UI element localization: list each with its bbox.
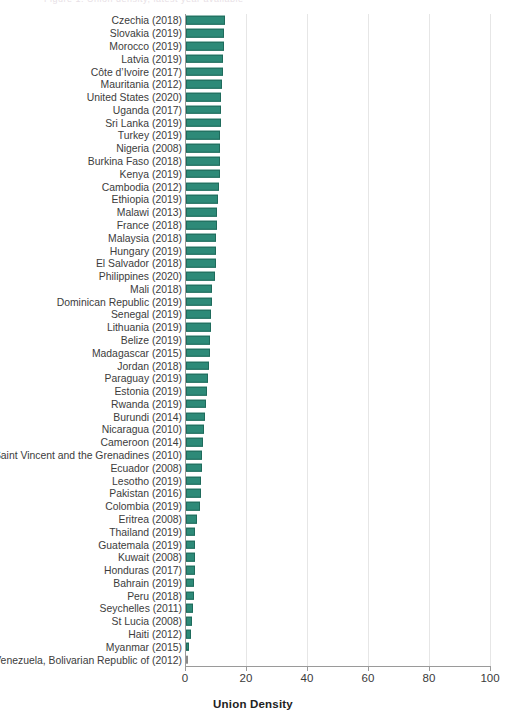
bar[interactable] [186, 182, 219, 191]
bar-row[interactable]: Ecuador (2008) [0, 461, 506, 474]
bar-row[interactable]: Peru (2018) [0, 589, 506, 602]
bar[interactable] [186, 157, 220, 166]
bar[interactable] [186, 118, 221, 127]
bar-row[interactable]: Thailand (2019) [0, 525, 506, 538]
bar[interactable] [186, 412, 205, 421]
bar[interactable] [186, 170, 220, 179]
bar[interactable] [186, 221, 217, 230]
bar[interactable] [186, 400, 206, 409]
bar[interactable] [186, 540, 195, 549]
bar[interactable] [186, 131, 220, 140]
bar[interactable] [186, 387, 207, 396]
bar-row[interactable]: Venezuela, Bolivarian Republic of (2012) [0, 653, 506, 666]
bar-row[interactable]: St Lucia (2008) [0, 615, 506, 628]
bar[interactable] [186, 655, 188, 664]
bar-row[interactable]: Dominican Republic (2019) [0, 295, 506, 308]
bar-row[interactable]: Uganda (2017) [0, 103, 506, 116]
bar[interactable] [186, 67, 223, 76]
bar-row[interactable]: Jordan (2018) [0, 359, 506, 372]
bar[interactable] [186, 489, 201, 498]
bar[interactable] [186, 553, 195, 562]
bar-row[interactable]: Lithuania (2019) [0, 321, 506, 334]
bar-row[interactable]: Latvia (2019) [0, 52, 506, 65]
bar-row[interactable]: Turkey (2019) [0, 129, 506, 142]
bar-row[interactable]: Estonia (2019) [0, 385, 506, 398]
bar[interactable] [186, 80, 222, 89]
bar[interactable] [186, 464, 202, 473]
bar[interactable] [186, 502, 200, 511]
bar-row[interactable]: Slovakia (2019) [0, 27, 506, 40]
bar[interactable] [186, 54, 223, 63]
bar-row[interactable]: Myanmar (2015) [0, 640, 506, 653]
bar[interactable] [186, 323, 211, 332]
bar-row[interactable]: Lesotho (2019) [0, 474, 506, 487]
bar-row[interactable]: Kuwait (2008) [0, 551, 506, 564]
bar-row[interactable]: Philippines (2020) [0, 270, 506, 283]
bar[interactable] [186, 617, 192, 626]
bar[interactable] [186, 451, 202, 460]
bar[interactable] [186, 579, 194, 588]
bar-row[interactable]: Cambodia (2012) [0, 180, 506, 193]
bar-row[interactable]: Kenya (2019) [0, 167, 506, 180]
bar[interactable] [186, 195, 218, 204]
bar-row[interactable]: Burundi (2014) [0, 410, 506, 423]
bar[interactable] [186, 246, 216, 255]
bar[interactable] [186, 29, 224, 38]
bar-row[interactable]: Mali (2018) [0, 282, 506, 295]
bar-row[interactable]: Ethiopia (2019) [0, 193, 506, 206]
bar[interactable] [186, 233, 216, 242]
bar-row[interactable]: Malaysia (2018) [0, 231, 506, 244]
bar-row[interactable]: Morocco (2019) [0, 40, 506, 53]
bar-row[interactable]: Malawi (2013) [0, 206, 506, 219]
bar[interactable] [186, 630, 191, 639]
bar-row[interactable]: United States (2020) [0, 91, 506, 104]
bar-row[interactable]: Madagascar (2015) [0, 346, 506, 359]
bar-row[interactable]: Paraguay (2019) [0, 372, 506, 385]
bar[interactable] [186, 272, 215, 281]
bar-row[interactable]: Bahrain (2019) [0, 577, 506, 590]
bar[interactable] [186, 438, 203, 447]
bar-row[interactable]: Hungary (2019) [0, 244, 506, 257]
bar-row[interactable]: Pakistan (2016) [0, 487, 506, 500]
bar-row[interactable]: Côte d’Ivoire (2017) [0, 65, 506, 78]
bar[interactable] [186, 285, 212, 294]
bar-row[interactable]: Senegal (2019) [0, 308, 506, 321]
bar[interactable] [186, 144, 220, 153]
bar[interactable] [186, 348, 210, 357]
bar[interactable] [186, 476, 201, 485]
bar[interactable] [186, 425, 204, 434]
bar-row[interactable]: El Salvador (2018) [0, 257, 506, 270]
bar-row[interactable]: Burkina Faso (2018) [0, 155, 506, 168]
bar[interactable] [186, 42, 224, 51]
bar-row[interactable]: Sri Lanka (2019) [0, 116, 506, 129]
bar[interactable] [186, 643, 189, 652]
bar[interactable] [186, 591, 194, 600]
bar[interactable] [186, 106, 221, 115]
bar[interactable] [186, 336, 210, 345]
bar-row[interactable]: Haiti (2012) [0, 628, 506, 641]
bar-row[interactable]: Honduras (2017) [0, 564, 506, 577]
bar-row[interactable]: Belize (2019) [0, 334, 506, 347]
bar-row[interactable]: Seychelles (2011) [0, 602, 506, 615]
bar-row[interactable]: Saint Vincent and the Grenadines (2010) [0, 449, 506, 462]
bar-row[interactable]: Czechia (2018) [0, 14, 506, 27]
bar[interactable] [186, 527, 195, 536]
bar-row[interactable]: Guatemala (2019) [0, 538, 506, 551]
bar[interactable] [186, 16, 225, 25]
bar[interactable] [186, 515, 197, 524]
bar-row[interactable]: Nigeria (2008) [0, 142, 506, 155]
bar[interactable] [186, 208, 217, 217]
bar-row[interactable]: Nicaragua (2010) [0, 423, 506, 436]
bar-row[interactable]: Eritrea (2008) [0, 513, 506, 526]
bar[interactable] [186, 604, 193, 613]
bar-row[interactable]: Rwanda (2019) [0, 398, 506, 411]
bar[interactable] [186, 566, 195, 575]
bar[interactable] [186, 361, 209, 370]
bar[interactable] [186, 374, 208, 383]
bar-row[interactable]: Colombia (2019) [0, 500, 506, 513]
bar-row[interactable]: France (2018) [0, 219, 506, 232]
bar[interactable] [186, 297, 212, 306]
bar-row[interactable]: Mauritania (2012) [0, 78, 506, 91]
bar[interactable] [186, 93, 221, 102]
bar[interactable] [186, 259, 216, 268]
